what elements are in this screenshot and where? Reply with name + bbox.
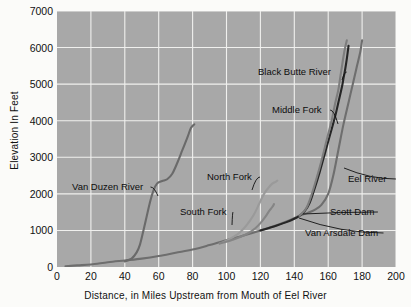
y-tick-label: 1000 [13, 225, 53, 235]
annotation-van-duzen-river: Van Duzen River [72, 182, 143, 192]
annotation-south-fork: South Fork [180, 207, 226, 217]
y-tick-label: 2000 [13, 189, 53, 199]
x-tick-label: 200 [376, 271, 411, 282]
x-axis-ticks: 020406080100120140160180200 [0, 271, 411, 287]
annotation-black-butte-river: Black Butte River [258, 67, 331, 77]
annotation-north-fork: North Fork [207, 172, 252, 182]
y-tick-label: 7000 [13, 6, 53, 16]
y-axis-title: Elevation In Feet [9, 76, 20, 186]
chart-figure: 01000200030004000500060007000 0204060801… [0, 0, 411, 307]
y-tick-label: 6000 [13, 43, 53, 53]
x-axis-title: Distance, in Miles Upstream from Mouth o… [0, 290, 411, 301]
annotation-van-arsdale-dam: Van Arsdale Dam [305, 228, 378, 238]
series-line-van-duzen-river [125, 124, 195, 261]
annotation-scott-dam: Scott Dam [330, 207, 374, 217]
annotation-eel-river: Eel River [348, 174, 387, 184]
annotation-middle-fork: Middle Fork [272, 105, 322, 115]
